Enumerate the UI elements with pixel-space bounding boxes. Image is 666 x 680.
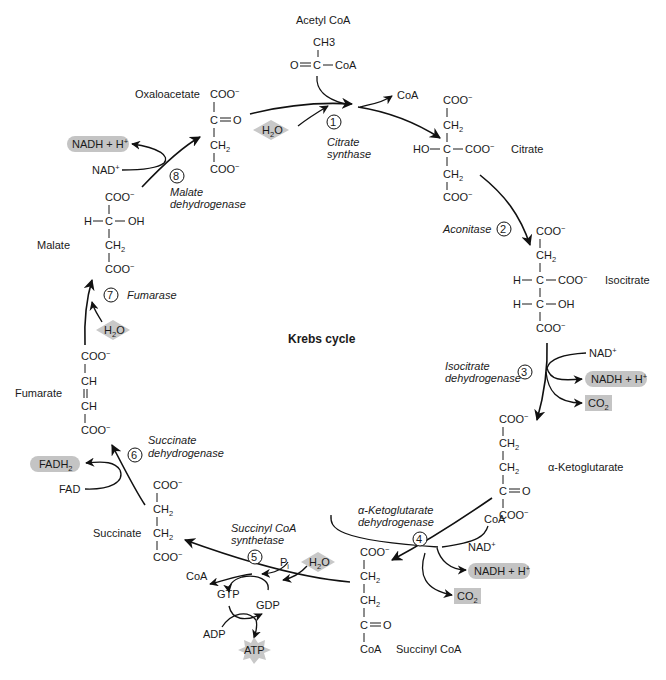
svg-text:H: H (513, 298, 521, 310)
svg-text:C: C (313, 59, 321, 71)
svg-text:1: 1 (330, 116, 336, 128)
svg-text:CoA: CoA (335, 59, 357, 71)
svg-text:Aconitase: Aconitase (442, 223, 491, 235)
krebs-cycle-diagram: Krebs cycle Acetyl CoA CH3 O C CoA Oxalo… (0, 0, 666, 680)
svg-text:α-Ketoglutarate: α-Ketoglutarate (548, 461, 623, 473)
svg-text:COO−: COO− (105, 190, 135, 203)
svg-text:COO−: COO− (443, 93, 473, 106)
svg-text:ATP: ATP (244, 644, 265, 656)
svg-text:Citrate: Citrate (511, 143, 543, 155)
svg-text:CH2: CH2 (443, 168, 463, 183)
gtp: GTP (217, 588, 240, 600)
diagram-title: Krebs cycle (288, 332, 356, 346)
svg-text:CoA: CoA (360, 643, 382, 655)
svg-text:C: C (443, 143, 451, 155)
svg-text:Succinate: Succinate (93, 527, 141, 539)
svg-text:COO−: COO− (81, 423, 111, 436)
enzyme-succinate-dehydrogenase: 6 Succinate dehydrogenase (128, 434, 224, 462)
svg-text:O: O (290, 59, 299, 71)
coa-step4: CoA (484, 513, 506, 525)
svg-text:NADH + H+: NADH + H+ (591, 372, 648, 385)
svg-text:α-Ketoglutarate: α-Ketoglutarate (358, 504, 433, 516)
svg-text:CH2: CH2 (360, 594, 380, 609)
isocitrate: COO− CH2 H C COO− Isocitrate H C OH COO− (513, 224, 650, 334)
svg-text:Fumarate: Fumarate (15, 387, 62, 399)
svg-text:Succinyl CoA: Succinyl CoA (396, 643, 462, 655)
arrow-step7 (85, 280, 92, 345)
h2o-step5: H2O (301, 552, 335, 572)
svg-text:3: 3 (521, 366, 527, 378)
svg-text:4: 4 (416, 533, 422, 545)
arrow-step3 (537, 343, 547, 420)
svg-text:C: C (499, 485, 507, 497)
succinyl-coa: COO− CH2 CH2 C O CoA Succinyl CoA (360, 545, 462, 655)
svg-text:C: C (210, 114, 218, 126)
svg-text:C: C (536, 274, 544, 286)
nad-step4: NAD+ (468, 540, 496, 553)
succinate: COO− CH2 CH2 Succinate COO− (93, 478, 183, 563)
svg-text:COO−: COO− (536, 321, 566, 334)
svg-text:synthetase: synthetase (231, 534, 284, 546)
nadh-step3: NADH + H+ (585, 371, 648, 387)
svg-text:CH3: CH3 (313, 36, 335, 48)
nad-step3: NAD+ (589, 346, 617, 359)
svg-text:CH: CH (81, 400, 97, 412)
svg-text:O: O (233, 114, 242, 126)
svg-text:CH2: CH2 (153, 503, 173, 518)
svg-text:2: 2 (500, 223, 506, 235)
svg-text:COO−: COO− (536, 224, 566, 237)
svg-text:C: C (536, 298, 544, 310)
h2o-step1: H2O (253, 120, 289, 140)
fad-step6: FAD (59, 483, 80, 495)
h2o-step7: H2O (96, 320, 130, 340)
fadh2-step6: FADH2 (30, 456, 80, 473)
svg-text:COO−: COO− (105, 262, 135, 275)
nad-step8: NAD+ (92, 163, 120, 176)
svg-text:COO−: COO− (210, 162, 240, 175)
enzyme-malate-dehydrogenase: 8 Malate dehydrogenase (170, 169, 246, 210)
oxaloacetate: Oxaloacetate COO− C O CH2 COO− (135, 87, 242, 175)
svg-text:COO−: COO− (153, 550, 183, 563)
svg-text:NADH + H+: NADH + H+ (72, 137, 129, 150)
svg-text:dehydrogenase: dehydrogenase (170, 198, 246, 210)
nadh-step8: NADH + H+ (67, 136, 129, 152)
svg-text:7: 7 (107, 289, 113, 301)
svg-text:6: 6 (131, 449, 137, 461)
svg-text:dehydrogenase: dehydrogenase (445, 372, 521, 384)
svg-text:Malate: Malate (170, 186, 203, 198)
svg-text:Succinate: Succinate (148, 434, 196, 446)
svg-text:CH2: CH2 (536, 249, 556, 264)
svg-text:CH2: CH2 (443, 119, 463, 134)
svg-text:COO−: COO− (360, 545, 390, 558)
arrow-to-citrate (358, 107, 440, 138)
svg-text:O: O (522, 485, 531, 497)
svg-text:HO: HO (413, 143, 430, 155)
coa-released-step1: CoA (397, 89, 419, 101)
co2-step4: CO2 (454, 588, 481, 605)
svg-text:C: C (360, 619, 368, 631)
coa-step5: CoA (186, 570, 208, 582)
svg-text:CH2: CH2 (360, 570, 380, 585)
svg-text:COO−: COO− (81, 349, 111, 362)
svg-text:COO−: COO− (499, 412, 529, 425)
svg-text:Isocitrate: Isocitrate (445, 360, 490, 372)
svg-text:NADH + H+: NADH + H+ (474, 564, 531, 577)
gdp: GDP (256, 599, 280, 611)
arrow-step1 (250, 103, 352, 114)
svg-text:OH: OH (558, 298, 575, 310)
fumarate: COO− CH Fumarate CH COO− (15, 349, 111, 436)
svg-text:Isocitrate: Isocitrate (605, 274, 650, 286)
svg-text:COO−: COO− (153, 478, 183, 491)
svg-text:CH2: CH2 (499, 437, 519, 452)
svg-text:CH2: CH2 (499, 461, 519, 476)
svg-text:C: C (105, 215, 113, 227)
enzyme-citrate-synthase: 1 Citrate synthase (327, 115, 371, 160)
svg-text:H: H (84, 215, 92, 227)
svg-text:Oxaloacetate: Oxaloacetate (135, 88, 200, 100)
svg-text:OH: OH (128, 215, 145, 227)
co2-step3: CO2 (585, 395, 612, 412)
acetyl-coa: Acetyl CoA CH3 O C CoA (290, 14, 357, 71)
svg-text:O: O (383, 619, 392, 631)
svg-text:CH2: CH2 (210, 139, 230, 154)
svg-text:H: H (513, 274, 521, 286)
